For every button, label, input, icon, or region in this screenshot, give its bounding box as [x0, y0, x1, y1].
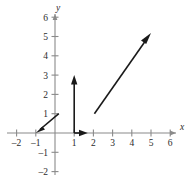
x-axis-arrowhead [170, 131, 176, 136]
x-tick-label-5: 5 [149, 138, 154, 148]
y-tick-label-2: 2 [43, 90, 48, 100]
vector-diagonal [94, 33, 151, 114]
y-tick-label-4: 4 [43, 51, 48, 61]
coordinate-plane: –2 –1 1 2 3 4 5 6 1 2 3 4 5 6 –1 –2 x y [0, 0, 190, 177]
x-tick-label-4: 4 [129, 138, 134, 148]
y-tick-label--1: –1 [38, 148, 49, 158]
y-tick-label-6: 6 [43, 13, 48, 23]
y-tick-label-3: 3 [43, 71, 48, 81]
y-tick-label--2: –2 [38, 167, 49, 177]
vector-plot-figure: –2 –1 1 2 3 4 5 6 1 2 3 4 5 6 –1 –2 x y [0, 0, 190, 177]
x-tick-label-2: 2 [91, 138, 96, 148]
x-tick-label-3: 3 [110, 138, 115, 148]
vector-up [71, 75, 77, 133]
x-tick-label-1: 1 [72, 138, 77, 148]
y-tick-label-5: 5 [43, 32, 48, 42]
y-tick-label-1: 1 [43, 109, 48, 119]
x-tick-label--2: –2 [11, 138, 22, 148]
vector-right-on-axis [74, 130, 88, 137]
x-tick-label--1: –1 [30, 138, 41, 148]
y-axis-label: y [55, 3, 61, 13]
x-tick-label-6: 6 [168, 138, 173, 148]
x-axis-label: x [179, 122, 185, 132]
